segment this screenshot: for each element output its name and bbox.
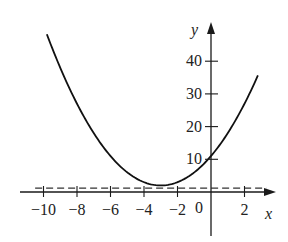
x-tick-label: −10 [31, 201, 56, 218]
x-tick-label: −8 [68, 201, 85, 218]
y-axis-arrow-icon [207, 22, 215, 34]
chart: −10−8−6−4−22010203040 x y [0, 0, 288, 242]
ticks [44, 61, 245, 197]
curve-path [47, 34, 258, 185]
y-tick-label: 20 [186, 118, 202, 135]
x-tick-label: −2 [169, 201, 186, 218]
y-axis-label: y [189, 21, 199, 39]
x-tick-label: −4 [135, 201, 152, 218]
curve [47, 34, 258, 185]
y-tick-label: 30 [186, 85, 202, 102]
x-tick-label: 2 [241, 201, 249, 218]
y-tick-label: 10 [186, 150, 202, 167]
x-axis-arrow-icon [264, 188, 276, 196]
origin-label: 0 [195, 199, 203, 216]
y-tick-label: 40 [186, 52, 202, 69]
x-tick-label: −6 [102, 201, 119, 218]
x-axis-label: x [264, 205, 272, 222]
